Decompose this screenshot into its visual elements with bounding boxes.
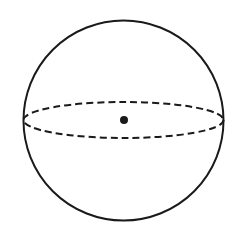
sphere-figure <box>0 0 242 230</box>
sphere-diagram <box>0 0 242 230</box>
center-point <box>120 116 128 124</box>
